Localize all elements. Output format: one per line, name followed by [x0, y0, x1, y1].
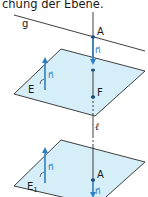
point-A-top [91, 35, 95, 39]
label-A-bottom: A [97, 169, 104, 180]
label-A-top: A [97, 26, 104, 37]
label-n-top: n⃗ [95, 45, 101, 55]
plane-E [14, 49, 145, 116]
label-n-E: n⃗ [48, 70, 54, 80]
label-n-bottom: n⃗ [95, 186, 101, 196]
label-n-E1: n⃗ [48, 162, 54, 172]
point-A-bottom [91, 178, 95, 182]
line-g [14, 15, 145, 51]
intersection-point [91, 68, 95, 71]
label-g: g [22, 18, 28, 29]
label-F: F [97, 87, 103, 98]
point-F [91, 95, 95, 99]
label-E: E [28, 84, 34, 95]
label-l: ℓ [95, 121, 99, 132]
geometry-diagram: g ℓ n⃗ A F n⃗ E n⃗ A n⃗ E1 [0, 0, 148, 197]
